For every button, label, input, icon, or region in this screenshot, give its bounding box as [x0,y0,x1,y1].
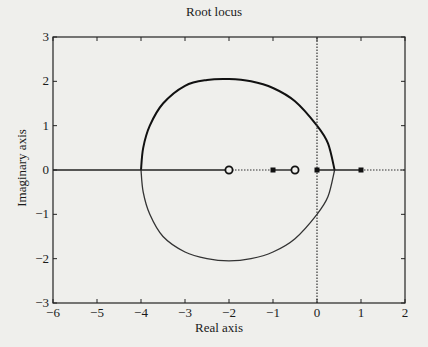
x-tick-label: −4 [121,306,161,320]
x-tick-label: −2 [209,306,249,320]
zero-marker [291,166,298,173]
y-tick-label: 3 [9,30,49,44]
x-tick-label: 2 [385,306,425,320]
y-tick-label: 0 [9,163,49,177]
x-tick-label: −5 [77,306,117,320]
x-tick-label: 1 [341,306,381,320]
y-tick-label: −2 [9,252,49,266]
pole-marker [359,168,364,173]
root-locus-chart [0,0,428,347]
pole-marker [271,168,276,173]
y-tick-label: −3 [9,296,49,310]
y-tick-label: 2 [9,74,49,88]
y-tick-label: 1 [9,119,49,133]
locus-upper-curve [141,79,335,170]
zero-marker [225,166,232,173]
chart-title: Root locus [0,4,428,20]
x-axis-label: Real axis [0,320,428,336]
pole-marker [315,168,320,173]
x-tick-label: −1 [253,306,293,320]
plot-area [53,37,405,303]
y-tick-label: −1 [9,207,49,221]
x-tick-label: 0 [297,306,337,320]
x-tick-label: −3 [165,306,205,320]
locus-lower-curve [141,170,335,261]
